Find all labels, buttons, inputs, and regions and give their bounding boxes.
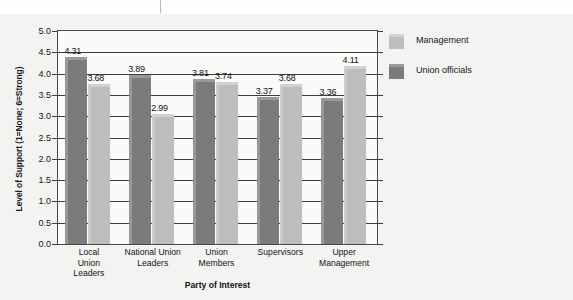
y-axis-tick-right	[377, 180, 383, 181]
bar-value-label: 3.74	[215, 71, 232, 81]
bar-highlight	[129, 78, 132, 244]
bar-value-label: 3.81	[192, 68, 209, 78]
bar-top-bevel	[152, 114, 174, 117]
page-edge-tick-mark	[160, 0, 161, 13]
bar-highlight	[152, 117, 155, 244]
bar-group: 3.813.74	[186, 31, 250, 244]
bar-top-bevel	[65, 57, 87, 60]
x-axis-label: LocalUnionLeaders	[57, 247, 121, 279]
x-axis-label-line: Members	[185, 258, 249, 269]
y-axis-tick-label: 4.5	[38, 47, 51, 57]
x-axis-label: National UnionLeaders	[121, 247, 185, 268]
bar-face	[88, 87, 110, 244]
bar-value-label: 2.99	[151, 103, 168, 113]
bar-group: 3.892.99	[122, 31, 186, 244]
bar-top-bevel	[321, 98, 343, 101]
bar-management	[88, 87, 110, 244]
x-axis-label-line: Supervisors	[248, 247, 312, 258]
bar-series-container: 4.313.683.892.993.813.743.373.683.364.11	[58, 31, 377, 244]
bar-management	[152, 117, 174, 244]
bar-top-bevel	[193, 79, 215, 82]
scanned-page-top-edge	[0, 0, 573, 15]
legend-label: Union officials	[416, 65, 472, 75]
bar-top-bevel	[257, 97, 279, 100]
legend-swatch	[389, 64, 404, 79]
y-axis-tick-right	[377, 244, 383, 245]
y-axis-tick-right	[377, 116, 383, 117]
bar-top-bevel	[280, 84, 302, 87]
y-axis-tick-right	[377, 138, 383, 139]
y-axis-tick	[52, 244, 58, 245]
bar-value-label: 3.68	[87, 73, 104, 83]
chart-legend: ManagementUnion officials	[389, 30, 559, 90]
y-axis-tick-right	[377, 95, 383, 96]
legend-item: Union officials	[389, 60, 559, 90]
y-axis-tick-label: 1.5	[38, 175, 51, 185]
bar-top-bevel	[129, 75, 151, 78]
y-axis-tick-label: 2.0	[38, 154, 51, 164]
bar-highlight	[280, 87, 283, 244]
x-axis-label-line: Upper	[312, 247, 376, 258]
bar-face	[321, 101, 343, 244]
y-axis-tick-label: 5.0	[38, 26, 51, 36]
bar-face	[280, 87, 302, 244]
x-axis-title: Party of Interest	[57, 280, 378, 290]
bar-top-bevel	[88, 84, 110, 87]
bar-group: 4.313.68	[58, 31, 122, 244]
x-axis-label: UnionMembers	[185, 247, 249, 268]
y-axis-tick-right	[377, 159, 383, 160]
bar-highlight	[321, 101, 324, 244]
x-axis-label: UpperManagement	[312, 247, 376, 268]
bar-top-bevel	[216, 82, 238, 85]
y-axis-tick-right	[377, 201, 383, 202]
bar-highlight	[344, 69, 347, 244]
plot-area: 4.313.683.892.993.813.743.373.683.364.11	[57, 30, 378, 245]
y-axis-tick-label: 4.0	[38, 69, 51, 79]
bar-group: 3.364.11	[313, 31, 377, 244]
x-axis-label-line: Union	[57, 258, 121, 269]
bar-management	[344, 69, 366, 244]
bar-chart-figure: Level of Support (1=None; 6=Strong) 5.04…	[0, 14, 573, 300]
bar-face	[193, 82, 215, 244]
y-axis-tick-right	[377, 31, 383, 32]
bar-union-officials	[257, 100, 279, 244]
bar-value-label: 3.37	[256, 86, 273, 96]
legend-swatch	[389, 34, 404, 49]
x-axis-label-line: National Union	[121, 247, 185, 258]
legend-swatch-face	[389, 37, 404, 49]
y-axis-tick-label: 0.0	[38, 239, 51, 249]
bar-top-bevel	[344, 66, 366, 69]
bar-value-label: 3.68	[279, 73, 296, 83]
x-axis-label-line: Local	[57, 247, 121, 258]
y-axis-tick-right	[377, 52, 383, 53]
x-axis-label-line: Leaders	[121, 258, 185, 269]
bar-highlight	[216, 85, 219, 244]
bar-face	[344, 69, 366, 244]
bar-value-label: 4.11	[343, 55, 359, 65]
bar-highlight	[193, 82, 196, 244]
bar-face	[216, 85, 238, 244]
legend-item: Management	[389, 30, 559, 60]
legend-label: Management	[416, 35, 469, 45]
bar-union-officials	[321, 101, 343, 244]
legend-swatch-face	[389, 67, 404, 79]
bar-highlight	[257, 100, 260, 244]
y-axis-tick-labels: 5.04.54.03.53.02.52.01.51.00.50.0	[0, 30, 57, 245]
bar-management	[216, 85, 238, 244]
bar-union-officials	[129, 78, 151, 244]
bar-face	[129, 78, 151, 244]
bar-face	[152, 117, 174, 244]
y-axis-tick-label: 1.0	[38, 196, 51, 206]
y-axis-tick-right	[377, 74, 383, 75]
bar-face	[257, 100, 279, 244]
y-axis-tick-label: 0.5	[38, 218, 51, 228]
y-axis-tick-right	[377, 223, 383, 224]
bar-union-officials	[193, 82, 215, 244]
y-axis-tick-label: 2.5	[38, 133, 51, 143]
bar-face	[65, 60, 87, 244]
bar-value-label: 3.89	[128, 64, 145, 74]
y-axis-tick-label: 3.5	[38, 90, 51, 100]
x-axis-label-line: Leaders	[57, 268, 121, 279]
bar-highlight	[65, 60, 68, 244]
bar-management	[280, 87, 302, 244]
